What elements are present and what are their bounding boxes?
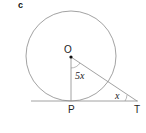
label-angle-x: x	[114, 90, 120, 101]
label-T: T	[134, 104, 140, 115]
label-O: O	[64, 44, 72, 55]
label-P: P	[68, 104, 75, 115]
geometry-diagram: c O 5x x P T	[0, 0, 146, 133]
center-point	[69, 55, 72, 58]
angle-arc-center	[71, 63, 80, 68]
angle-arc-T	[125, 95, 127, 101]
part-label: c	[18, 0, 23, 10]
label-angle-5x: 5x	[75, 70, 85, 81]
